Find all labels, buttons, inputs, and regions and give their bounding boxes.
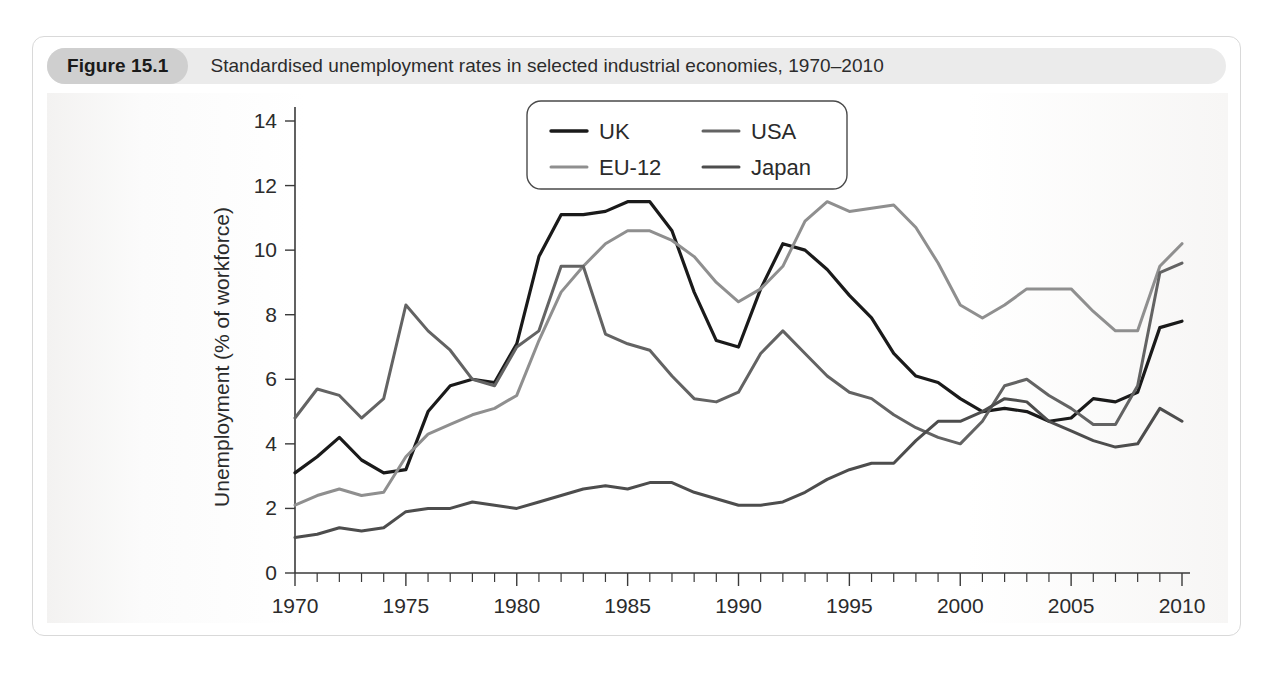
x-axis-tick-label: 1970 <box>272 594 319 617</box>
legend-label-uk: UK <box>599 119 630 144</box>
x-axis-tick-label: 2000 <box>937 594 984 617</box>
legend-label-eu-12: EU-12 <box>599 155 661 180</box>
y-axis-title: Unemployment (% of workforce) <box>210 207 233 507</box>
series-line-eu-12 <box>295 202 1182 505</box>
y-axis-tick-label: 4 <box>265 432 277 455</box>
y-axis-tick-label: 14 <box>254 109 278 132</box>
x-axis-tick-label: 2005 <box>1048 594 1095 617</box>
y-axis-tick-label: 6 <box>265 367 277 390</box>
x-axis-tick-label: 2010 <box>1159 594 1206 617</box>
y-axis-tick-label: 0 <box>265 561 277 584</box>
y-axis-tick-label: 8 <box>265 303 277 326</box>
figure-caption-bar: Figure 15.1 Standardised unemployment ra… <box>47 48 1226 84</box>
legend-label-usa: USA <box>751 119 797 144</box>
figure-card: Figure 15.1 Standardised unemployment ra… <box>32 36 1241 636</box>
x-axis-tick-label: 1980 <box>493 594 540 617</box>
series-line-uk <box>295 202 1182 473</box>
x-axis-tick-label: 1995 <box>826 594 873 617</box>
y-axis-tick-label: 12 <box>254 174 277 197</box>
y-axis-tick-label: 10 <box>254 238 277 261</box>
legend-label-japan: Japan <box>751 155 811 180</box>
series-line-japan <box>295 399 1182 538</box>
x-axis-tick-label: 1990 <box>715 594 762 617</box>
x-axis-tick-label: 1985 <box>604 594 651 617</box>
figure-title: Standardised unemployment rates in selec… <box>188 48 883 84</box>
page-root: Figure 15.1 Standardised unemployment ra… <box>0 0 1273 674</box>
figure-number-pill: Figure 15.1 <box>47 48 188 84</box>
x-axis-tick-label: 1975 <box>383 594 430 617</box>
plot-area: 0246810121419701975198019851990199520002… <box>47 93 1228 623</box>
y-axis-tick-label: 2 <box>265 496 277 519</box>
unemployment-line-chart: 0246810121419701975198019851990199520002… <box>47 93 1228 623</box>
